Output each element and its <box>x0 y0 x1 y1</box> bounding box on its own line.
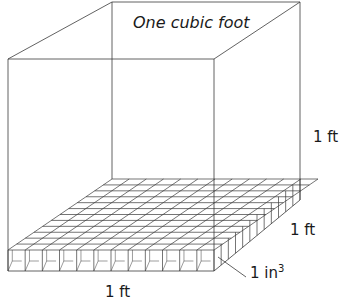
diagram-title: One cubic foot <box>133 13 250 32</box>
unit-cube-leader-line <box>218 257 246 277</box>
unit-cube-label: 1 in3 <box>250 263 284 282</box>
depth-label: 1 ft <box>290 221 315 239</box>
cube-left-top-edge <box>8 2 112 59</box>
cubic-foot-diagram <box>0 0 340 303</box>
height-label: 1 ft <box>313 128 338 146</box>
width-label: 1 ft <box>105 283 130 301</box>
